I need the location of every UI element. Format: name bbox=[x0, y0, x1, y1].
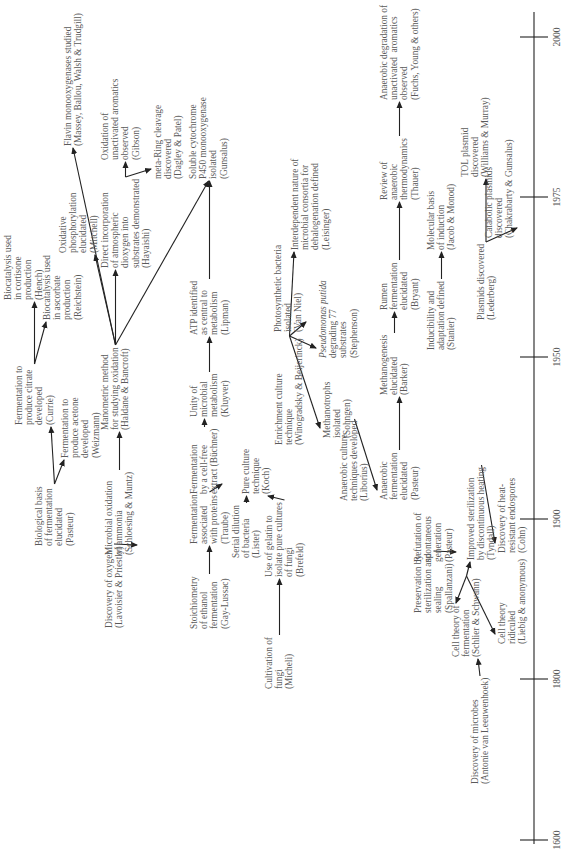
event-text-line: (Gay-Lussac) bbox=[220, 576, 230, 629]
event-text-line: discovered bbox=[494, 139, 504, 238]
event-text-line: (Mitchell) bbox=[89, 193, 99, 253]
event-text-line: ridiculed bbox=[507, 559, 517, 644]
event-text-line: (Dagley & Patel) bbox=[173, 105, 183, 179]
event-text-line: (Thauer) bbox=[410, 138, 420, 200]
event-text-line: (Winogradsky & Beijerinck) bbox=[294, 338, 304, 445]
event-text-line: Discovery of microbes bbox=[470, 678, 480, 784]
event-text-line: of bacteria bbox=[241, 505, 251, 558]
event-text-line: ATP identified bbox=[189, 281, 199, 335]
event-text-line: adaptation defined bbox=[436, 281, 446, 350]
event-text-line: Direct incorporation bbox=[100, 179, 110, 268]
event-text-line: elucidated bbox=[399, 453, 409, 501]
event-text-line: Improved sterilization bbox=[466, 467, 476, 560]
event-node-molecularbasis: Molecular basisof induction(Jacob & Mono… bbox=[426, 184, 457, 250]
event-text-line: (Pasteur) bbox=[410, 453, 420, 501]
event-node-interdep: Interdependent nature ofmicrobial consor… bbox=[290, 159, 331, 250]
event-text-line: dioxygen into bbox=[120, 179, 130, 268]
event-text-line: fermentation bbox=[461, 579, 471, 658]
event-node-photosyn: Photosynthetic bacteriaisolated(Van Niel… bbox=[273, 245, 304, 332]
event-text-line: Anaerobic degradation of bbox=[379, 5, 389, 100]
event-text-line: Catabolic plasmids bbox=[484, 139, 494, 238]
event-text-line: Preservation by bbox=[413, 553, 423, 613]
event-text-line: in cortisone bbox=[13, 235, 23, 300]
event-node-ridiculed: Cell theoryridiculed(Liebig & anonymous) bbox=[497, 559, 528, 644]
event-text-line: fermentation bbox=[389, 453, 399, 501]
event-text-line: (Traube) bbox=[220, 494, 230, 544]
event-text-line: of fermentation bbox=[44, 486, 54, 546]
event-text-line: Pure culture bbox=[241, 449, 251, 494]
event-node-cortisone: Biocatalysis usedin cortisoneproduction(… bbox=[3, 235, 44, 300]
event-text-line: metabolism bbox=[209, 374, 219, 417]
event-text-line: produce citrate bbox=[24, 366, 34, 425]
event-text-line: microbial bbox=[199, 374, 209, 417]
event-text-line: (Bryant) bbox=[410, 263, 420, 311]
event-text-line: for studying oxidation bbox=[110, 347, 120, 430]
event-text-line: substrates demonstrated bbox=[131, 179, 141, 268]
event-node-pseudomonas: Pseudomonas putidadegrading 77substrates… bbox=[318, 280, 359, 358]
event-text-line: sealing bbox=[433, 553, 443, 613]
event-text-line: sterilization and bbox=[423, 553, 433, 613]
event-text-line: (Schloesing & Muntz) bbox=[124, 472, 134, 555]
axis-tick-label: 1600 bbox=[552, 831, 562, 850]
event-text-line: extract (Büchner) bbox=[209, 429, 219, 494]
event-text-line: produce acetone bbox=[70, 397, 80, 458]
event-node-inducibility: Inducibility andadaptation defined(Stani… bbox=[426, 281, 457, 350]
microbiology-timeline-diagram: Discovery of oxygen(Lavoisier & Priestly… bbox=[0, 0, 576, 850]
event-text-line: Serial dilution bbox=[231, 505, 241, 558]
event-node-tyndall: Improved sterilizationby discontinuous h… bbox=[466, 467, 497, 560]
event-text-line: Anaerobic culture bbox=[339, 421, 349, 501]
event-node-manometric: Manometric methodfor studying oxidation(… bbox=[100, 347, 131, 430]
event-text-line: (Spallanzani) bbox=[444, 553, 454, 613]
event-text-line: Pseudomonas putida bbox=[318, 280, 328, 358]
event-text-line: production bbox=[23, 235, 33, 300]
arrow-gelatin-to-pureculture bbox=[268, 496, 285, 500]
event-text-line: Fermentation bbox=[189, 494, 199, 544]
event-text-line: (Pasteur) bbox=[65, 486, 75, 546]
event-text-line: (Barker) bbox=[399, 335, 409, 395]
event-text-line: observed bbox=[399, 5, 409, 100]
event-text-line: unactivated aromatics bbox=[110, 79, 120, 160]
event-text-line: (Leisinger) bbox=[321, 159, 331, 250]
event-text-line: (Cohn) bbox=[517, 478, 527, 553]
event-text-line: generation bbox=[433, 513, 443, 562]
event-text-line: thermodynamics bbox=[399, 138, 409, 200]
event-text-line: Discovery of oxygen bbox=[104, 546, 114, 628]
event-node-unactivated: Oxidation ofunactivated aromaticsobserve… bbox=[100, 79, 141, 160]
arrow-celltheory-to-tyndall bbox=[467, 562, 471, 576]
event-text-line: (Haldane & Bancroft) bbox=[120, 347, 130, 430]
event-node-p450: Soluble cytochromeP450 monooxygenaseisol… bbox=[188, 97, 229, 179]
time-axis bbox=[520, 12, 548, 844]
event-text-line: (Pasteur) bbox=[444, 513, 454, 562]
event-text-line: Photosynthetic bacteria bbox=[273, 245, 283, 332]
event-text-line: dehalogenation defined bbox=[310, 159, 320, 250]
event-node-anaerobictech: Anaerobic culturetechniques developed(Li… bbox=[339, 421, 370, 501]
event-text-line: fungi bbox=[274, 637, 284, 689]
event-node-acetone: Fermentation toproduce acetonedeveloped(… bbox=[60, 397, 101, 458]
event-node-gelatin: Use of gelatin toisolate pure culturesof… bbox=[264, 502, 305, 577]
event-node-citrate: Fermentation toproduce citratedeveloped(… bbox=[14, 366, 55, 425]
event-text-line: (Tyndall) bbox=[486, 467, 496, 560]
event-node-microbes: Discovery of microbes(Antonie van Leeuwe… bbox=[470, 678, 490, 784]
event-text-line: by discontinuous heating bbox=[476, 467, 486, 560]
event-text-line: microbial consortia for bbox=[300, 159, 310, 250]
event-text-line: degrading 77 bbox=[328, 280, 338, 358]
event-text-line: (Kluyver) bbox=[220, 374, 230, 417]
arrow-citrate-to-ascorbate bbox=[35, 322, 47, 364]
event-text-line: Oxidative bbox=[58, 193, 68, 253]
event-text-line: fermentation bbox=[389, 263, 399, 311]
event-text-line: technique bbox=[284, 338, 294, 445]
event-text-line: Methanotrophs bbox=[322, 382, 332, 438]
event-text-line: Microbial oxidation bbox=[104, 472, 114, 555]
event-text-line: elucidated bbox=[389, 335, 399, 395]
event-text-line: substrates bbox=[338, 280, 348, 358]
event-text-line: developed bbox=[80, 397, 90, 458]
event-text-line: as central to bbox=[199, 281, 209, 335]
event-node-endospores: Discovery of heat-resistant endospores(C… bbox=[497, 478, 528, 553]
event-text-line: Rumen bbox=[379, 263, 389, 311]
event-text-line: (Reichstein) bbox=[73, 255, 83, 320]
axis-tick-label: 2000 bbox=[552, 28, 562, 47]
event-text-line: Fermentation bbox=[189, 429, 199, 494]
event-text-line: Refutation of bbox=[413, 513, 423, 562]
event-text-line: Plasmids discovered bbox=[476, 244, 486, 320]
event-text-line: Fermentation to bbox=[14, 366, 24, 425]
